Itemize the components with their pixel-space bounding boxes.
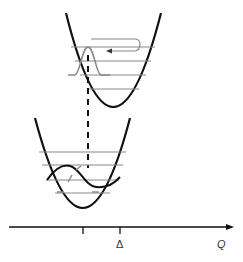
wavefunction-marker <box>76 166 81 170</box>
axis-label-q: Q <box>217 238 226 250</box>
lower-potential-well <box>35 118 130 208</box>
axis-arrowhead-icon <box>226 224 234 230</box>
tick-label-delta: Δ <box>116 238 123 250</box>
wavefunction-marker <box>68 175 72 182</box>
arrowhead-icon <box>106 49 112 54</box>
upper-potential-well <box>66 13 161 107</box>
relaxation-arrow-icon <box>91 39 140 51</box>
diagram-canvas <box>0 0 243 262</box>
